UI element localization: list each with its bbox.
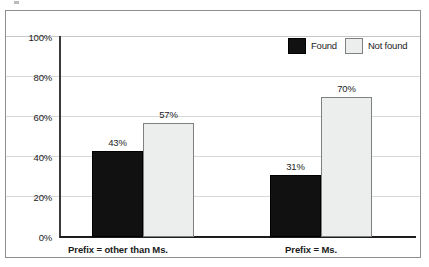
category-label-group1: Prefix = other than Ms. xyxy=(38,245,198,255)
legend-swatch-found-icon xyxy=(288,38,306,54)
legend-item-notfound: Not found xyxy=(345,38,407,54)
bar-value-group2-notfound: 70% xyxy=(321,84,372,94)
bar-value-group2-found: 31% xyxy=(270,162,321,172)
bar-group1-notfound xyxy=(143,123,194,237)
y-tick-label-80: 80% xyxy=(6,73,52,83)
y-tick-label-100: 100% xyxy=(6,33,52,43)
y-tick-label-60: 60% xyxy=(6,113,52,123)
category-label-group2: Prefix = Ms. xyxy=(231,245,391,255)
chart-legend: Found Not found xyxy=(288,37,407,55)
y-tick-label-20: 20% xyxy=(6,193,52,203)
legend-label-found: Found xyxy=(311,41,337,51)
bar-group2-found xyxy=(270,175,321,237)
bar-group1-found xyxy=(92,151,143,237)
legend-item-found: Found xyxy=(288,38,337,54)
scan-artifact-speck xyxy=(14,1,19,4)
chart-figure: 100% 80% 60% 40% 20% 0% 43% 57% 31% 70% … xyxy=(5,10,421,258)
y-tick-label-0: 0% xyxy=(6,233,52,243)
legend-swatch-notfound-icon xyxy=(345,38,363,54)
bar-value-group1-found: 43% xyxy=(92,138,143,148)
plot-area: 43% 57% 31% 70% xyxy=(60,37,416,237)
y-tick-label-40: 40% xyxy=(6,153,52,163)
legend-label-notfound: Not found xyxy=(368,41,407,51)
bar-value-group1-notfound: 57% xyxy=(143,110,194,120)
bar-group2-notfound xyxy=(321,97,372,237)
